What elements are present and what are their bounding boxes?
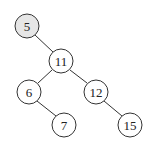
edge-6-7 xyxy=(37,101,56,116)
edge-5-11 xyxy=(35,35,53,52)
node-label: 11 xyxy=(55,54,68,69)
node-label: 15 xyxy=(124,118,137,133)
edge-12-15 xyxy=(104,101,122,116)
tree-node-12: 12 xyxy=(84,80,108,104)
edge-11-12 xyxy=(70,70,87,83)
tree-node-5: 5 xyxy=(15,14,39,38)
edge-11-6 xyxy=(38,70,52,83)
node-label: 7 xyxy=(61,118,68,133)
node-label: 6 xyxy=(26,85,33,100)
tree-diagram: 5 11 6 12 7 15 xyxy=(0,0,155,145)
tree-node-7: 7 xyxy=(52,113,76,137)
node-label: 12 xyxy=(90,85,103,100)
node-label: 5 xyxy=(24,19,31,34)
tree-node-6: 6 xyxy=(17,80,41,104)
tree-node-15: 15 xyxy=(118,113,142,137)
edges xyxy=(35,35,122,116)
tree-node-11: 11 xyxy=(49,49,73,73)
